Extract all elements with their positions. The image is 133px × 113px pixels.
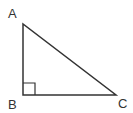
vertex-label-c: C bbox=[118, 96, 127, 111]
triangle-abc bbox=[23, 24, 116, 95]
vertex-label-b: B bbox=[8, 97, 17, 112]
right-triangle-diagram: A B C bbox=[0, 0, 133, 113]
right-angle-marker bbox=[23, 83, 35, 95]
vertex-label-a: A bbox=[8, 6, 17, 21]
